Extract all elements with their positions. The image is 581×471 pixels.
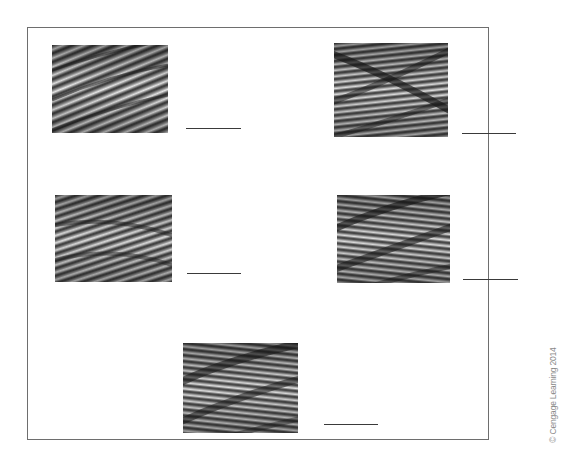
answer-line-5[interactable] bbox=[324, 424, 378, 425]
answer-line-4[interactable] bbox=[463, 279, 518, 280]
wire-rope-image-1 bbox=[52, 45, 168, 133]
wire-rope-image-4 bbox=[337, 195, 450, 283]
wire-rope-image-5 bbox=[183, 343, 298, 433]
wire-rope-image-3 bbox=[55, 195, 172, 282]
answer-line-3[interactable] bbox=[187, 273, 241, 274]
answer-line-1[interactable] bbox=[186, 128, 241, 129]
copyright-notice: © Cengage Learning 2014 bbox=[548, 340, 558, 450]
wire-rope-image-2 bbox=[334, 43, 448, 137]
answer-line-2[interactable] bbox=[462, 133, 516, 134]
